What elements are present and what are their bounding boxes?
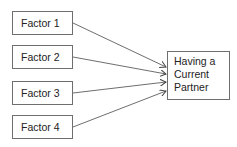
arrow-factor-3 [73, 82, 166, 93]
factor-3-box: Factor 3 [12, 81, 73, 105]
factor-3-label: Factor 3 [21, 87, 60, 99]
outcome-line-1: Having a [174, 55, 215, 68]
factor-1-label: Factor 1 [21, 17, 60, 29]
outcome-box: Having a Current Partner [167, 51, 230, 100]
arrow-factor-4 [73, 91, 166, 127]
factor-1-box: Factor 1 [12, 11, 73, 35]
outcome-line-3: Partner [174, 81, 208, 94]
factor-4-box: Factor 4 [12, 115, 73, 139]
outcome-line-2: Current [174, 68, 209, 81]
factor-4-label: Factor 4 [21, 121, 60, 133]
factor-2-box: Factor 2 [12, 45, 73, 69]
factor-2-label: Factor 2 [21, 51, 60, 63]
arrow-factor-1 [73, 23, 166, 67]
arrow-factor-2 [73, 57, 166, 74]
